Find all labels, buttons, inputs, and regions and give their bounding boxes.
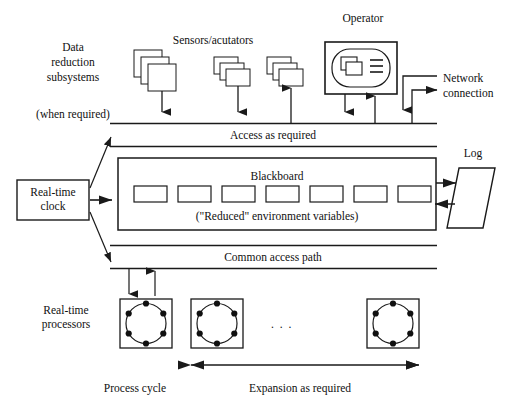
sensor-stack-1[interactable] bbox=[134, 50, 176, 91]
label-access-as-required: Access as required bbox=[230, 129, 316, 142]
label-log: Log bbox=[464, 147, 483, 160]
network-line-1: Network bbox=[443, 72, 483, 84]
arrow-clock-to-common-path bbox=[90, 212, 111, 262]
processors-line-1: Real-time bbox=[43, 304, 88, 316]
label-blackboard: Blackboard bbox=[250, 170, 303, 182]
label-process-cycle: Process cycle bbox=[104, 382, 166, 395]
blackboard-cell[interactable] bbox=[134, 186, 167, 202]
arrow-clock-to-access-bus bbox=[90, 137, 111, 188]
access-as-required-bus: Access as required bbox=[110, 124, 437, 147]
label-sensors-actuators: Sensors/acutators bbox=[173, 34, 254, 46]
blackboard-cell[interactable] bbox=[222, 186, 255, 202]
blackboard-cell[interactable] bbox=[178, 186, 211, 202]
data-reduction-line-2: reduction bbox=[51, 56, 95, 68]
expansion-arrow-right-head bbox=[406, 360, 419, 369]
sensor-stack-3[interactable] bbox=[267, 57, 303, 86]
clock-line-2: clock bbox=[41, 200, 66, 212]
blackboard-cell[interactable] bbox=[354, 186, 387, 202]
label-expansion-as-required: Expansion as required bbox=[249, 382, 351, 395]
label-operator: Operator bbox=[343, 12, 384, 25]
clock-line-1: Real-time bbox=[30, 186, 75, 198]
blackboard-cells bbox=[134, 186, 431, 202]
blackboard-container[interactable]: Blackboard ("Reduced" environment variab… bbox=[118, 158, 436, 230]
label-common-access-path: Common access path bbox=[224, 251, 322, 264]
label-when-required: (when required) bbox=[36, 108, 110, 121]
network-connection-link[interactable] bbox=[403, 76, 437, 123]
sensor-stack-2[interactable] bbox=[214, 57, 250, 86]
label-network-connection: Network connection bbox=[443, 72, 494, 99]
diagram-canvas: Data reduction subsystems (when required… bbox=[0, 0, 525, 416]
arrow-network-out bbox=[412, 90, 437, 123]
real-time-clock-box[interactable]: Real-time clock bbox=[17, 180, 89, 220]
blackboard-cell[interactable] bbox=[266, 186, 299, 202]
blackboard-cell[interactable] bbox=[398, 186, 431, 202]
expansion-arrow-left-head bbox=[191, 360, 204, 369]
label-data-reduction-subsystems: Data reduction subsystems bbox=[47, 41, 100, 84]
log-store[interactable] bbox=[447, 168, 495, 228]
blackboard-architecture-diagram: Data reduction subsystems (when required… bbox=[0, 0, 525, 416]
arrow-network-in bbox=[403, 76, 437, 110]
data-reduction-line-1: Data bbox=[62, 41, 84, 53]
blackboard-cell[interactable] bbox=[310, 186, 343, 202]
label-ellipsis: . . . bbox=[271, 318, 293, 330]
real-time-processor[interactable] bbox=[120, 299, 172, 348]
label-reduced-environment-variables: ("Reduced" environment variables) bbox=[196, 210, 359, 223]
network-line-2: connection bbox=[443, 87, 494, 99]
real-time-processor[interactable] bbox=[367, 299, 419, 348]
common-access-path-bus: Common access path bbox=[110, 246, 437, 269]
operator-console[interactable] bbox=[325, 42, 397, 94]
real-time-processor[interactable] bbox=[191, 299, 243, 348]
data-reduction-line-3: subsystems bbox=[47, 71, 100, 84]
processors-line-2: processors bbox=[42, 318, 91, 331]
